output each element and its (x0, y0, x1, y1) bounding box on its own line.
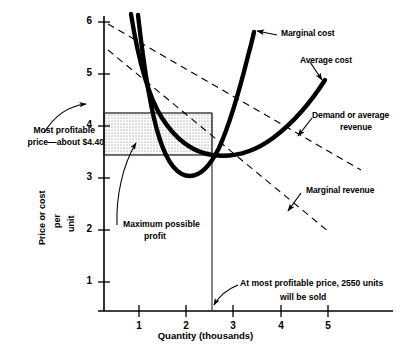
y-tick-label-1: 1 (78, 275, 92, 286)
y-tick-label-5: 5 (78, 67, 92, 78)
marginal-revenue-label: Marginal revenue (306, 185, 374, 196)
max-profit-annotation-line-2: profit (144, 231, 166, 243)
units-sold-annotation-line-2: will be sold (280, 292, 326, 304)
units-sold-pointer (214, 285, 238, 305)
marginal-cost-pointer (257, 31, 277, 35)
demand-label-line-2: revenue (340, 122, 372, 133)
economics-chart-figure: 6 5 4 3 2 1 1 2 3 4 5 Quantity (thousand… (0, 0, 411, 353)
marginal-revenue-pointer (288, 193, 301, 211)
profit-price-annotation-line-1: Most profitable (0, 125, 95, 137)
y-axis-title-line-3: unit (66, 216, 76, 233)
chart-plot-area (0, 0, 411, 353)
y-tick-label-6: 6 (78, 15, 92, 26)
profit-price-annotation-line-2: price—about $4.40 (0, 137, 104, 149)
average-cost-label: Average cost (300, 55, 352, 66)
x-axis-title: Quantity (thousands) (0, 330, 411, 341)
marginal-cost-label: Marginal cost (281, 28, 335, 39)
max-profit-annotation-line-1: Maximum possible (123, 219, 200, 231)
y-tick-label-2: 2 (78, 223, 92, 234)
y-axis-title-line-2: per (52, 214, 62, 228)
demand-pointer (298, 118, 312, 136)
demand-label-line-1: Demand or average (312, 110, 389, 121)
y-axis-title-line-1: Price or cost (37, 190, 47, 245)
y-tick-label-3: 3 (78, 171, 92, 182)
units-sold-annotation-line-1: At most profitable price, 2550 units (240, 278, 383, 290)
